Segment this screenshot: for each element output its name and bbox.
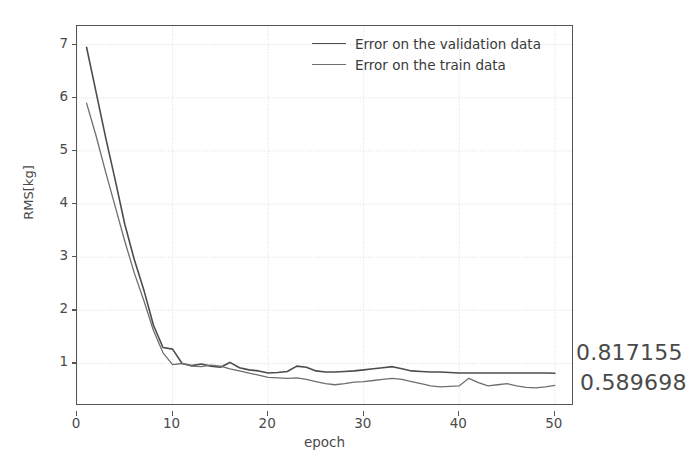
validation-end-value-annotation: 0.817155 — [576, 340, 683, 365]
x-tick-mark — [363, 411, 364, 416]
y-tick-label: 2 — [40, 302, 68, 316]
y-tick-label: 1 — [40, 355, 68, 369]
x-tick-mark — [267, 411, 268, 416]
x-tick-mark — [76, 411, 77, 416]
y-tick-label: 3 — [40, 249, 68, 263]
plot-area — [76, 25, 573, 405]
y-axis-tick-labels: 1234567 — [36, 25, 68, 405]
series-line — [87, 103, 555, 388]
legend-item-train: Error on the train data — [312, 54, 562, 75]
y-tick-label: 4 — [40, 196, 68, 210]
chart-figure: 1234567 RMS[kg] 01020304050 epoch Error … — [0, 0, 689, 472]
y-axis-title: RMS[kg] — [21, 133, 36, 253]
x-axis-tick-labels: 01020304050 — [76, 411, 573, 431]
legend-label-validation: Error on the validation data — [355, 36, 541, 52]
x-axis-title: epoch — [76, 434, 573, 450]
x-tick-label: 40 — [438, 417, 478, 431]
y-tick-label: 5 — [40, 143, 68, 157]
x-tick-mark — [554, 411, 555, 416]
x-tick-label: 50 — [534, 417, 574, 431]
legend-line-sample-train — [312, 59, 346, 71]
legend: Error on the validation data Error on th… — [312, 29, 562, 75]
series-line — [87, 47, 555, 373]
x-tick-mark — [172, 411, 173, 416]
x-tick-label: 30 — [343, 417, 383, 431]
legend-item-validation: Error on the validation data — [312, 33, 562, 54]
data-series-layer — [77, 26, 574, 406]
legend-line-sample-validation — [312, 38, 346, 50]
legend-label-train: Error on the train data — [355, 57, 506, 73]
y-tick-label: 7 — [40, 37, 68, 51]
y-tick-label: 6 — [40, 90, 68, 104]
x-tick-label: 20 — [247, 417, 287, 431]
train-end-value-annotation: 0.589698 — [580, 370, 687, 395]
x-tick-label: 0 — [56, 417, 96, 431]
x-tick-mark — [458, 411, 459, 416]
x-tick-label: 10 — [152, 417, 192, 431]
